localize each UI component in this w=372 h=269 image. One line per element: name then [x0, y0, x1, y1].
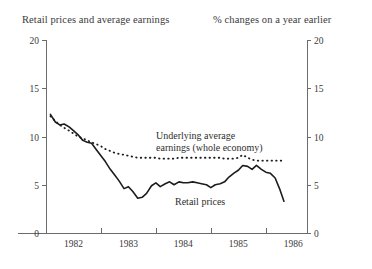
y-tick-label-left: 0	[34, 229, 39, 239]
y-tick-label-left: 15	[30, 84, 40, 94]
y-tick-label-left: 5	[34, 181, 39, 191]
annotation-retail-prices: Retail prices	[175, 196, 225, 208]
y-tick-label-right: 10	[314, 133, 324, 143]
annotation-earnings-line2: earnings (whole economy)	[156, 142, 263, 154]
y-tick-label-right: 15	[314, 84, 324, 94]
x-tick-label: 1983	[119, 239, 138, 249]
series-group	[50, 114, 284, 201]
y-tick-label-left: 10	[30, 133, 40, 143]
chart-figure: Retail prices and average earnings % cha…	[0, 0, 372, 269]
x-tick-label: 1984	[174, 239, 193, 249]
x-tick-label: 1982	[64, 239, 83, 249]
x-tick-label: 1986	[284, 239, 303, 249]
annotation-earnings-line1: Underlying average	[156, 130, 263, 142]
x-tick-label: 1985	[229, 239, 248, 249]
y-tick-label-left: 20	[30, 36, 40, 46]
annotation-earnings: Underlying average earnings (whole econo…	[156, 130, 263, 153]
y-tick-label-right: 20	[314, 36, 324, 46]
y-tick-label-right: 0	[314, 229, 319, 239]
y-tick-label-right: 5	[314, 181, 319, 191]
